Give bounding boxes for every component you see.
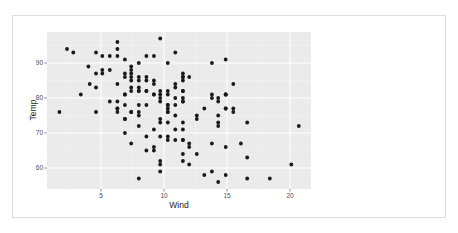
data-point	[166, 89, 170, 93]
data-point	[94, 110, 98, 114]
data-point	[58, 110, 62, 114]
data-point	[116, 110, 120, 114]
data-point	[145, 103, 149, 107]
data-point	[145, 89, 149, 93]
data-point	[158, 89, 162, 93]
data-point	[137, 110, 141, 114]
data-point	[166, 138, 170, 142]
data-point	[289, 163, 293, 167]
scatter-plot: 5101520 60708090 Wind Temp	[0, 0, 458, 233]
x-axis-ticks: 5101520	[99, 189, 294, 199]
data-point	[210, 96, 214, 100]
data-point	[216, 124, 220, 128]
data-point	[224, 145, 228, 149]
data-point	[173, 138, 177, 142]
data-point	[100, 54, 104, 58]
data-point	[158, 121, 162, 125]
data-point	[181, 152, 185, 156]
data-point	[123, 75, 127, 79]
data-point	[145, 75, 149, 79]
data-point	[152, 54, 156, 58]
data-point	[173, 86, 177, 90]
data-point	[181, 96, 185, 100]
data-point	[166, 103, 170, 107]
data-point	[181, 128, 185, 132]
data-point	[152, 128, 156, 132]
data-point	[173, 82, 177, 86]
data-point	[108, 54, 112, 58]
data-point	[129, 75, 133, 79]
data-point	[166, 93, 170, 97]
data-point	[181, 159, 185, 163]
data-point	[129, 72, 133, 76]
data-point	[158, 96, 162, 100]
data-point	[145, 79, 149, 83]
data-point	[137, 61, 141, 65]
data-point	[210, 170, 214, 174]
data-point	[195, 152, 199, 156]
data-point	[145, 149, 149, 153]
data-point	[239, 142, 243, 146]
data-point	[137, 79, 141, 83]
data-point	[181, 72, 185, 76]
x-axis-title: Wind	[169, 200, 189, 210]
data-point	[158, 93, 162, 97]
data-point	[181, 75, 185, 79]
data-point	[216, 96, 220, 100]
data-point	[187, 163, 191, 167]
y-tick-label: 70	[36, 129, 44, 136]
data-point	[137, 103, 141, 107]
data-point	[224, 58, 228, 62]
x-tick-label: 15	[223, 192, 231, 199]
data-point	[129, 79, 133, 83]
data-point	[210, 61, 214, 65]
data-point	[129, 65, 133, 69]
data-point	[245, 121, 249, 125]
data-point	[245, 177, 249, 181]
data-point	[129, 86, 133, 90]
data-point	[231, 82, 235, 86]
data-point	[116, 100, 120, 104]
data-point	[129, 142, 133, 146]
y-axis-title: Temp	[28, 99, 38, 120]
data-point	[181, 89, 185, 93]
data-point	[158, 163, 162, 167]
data-point	[195, 114, 199, 118]
data-point	[210, 93, 214, 97]
data-point	[166, 61, 170, 65]
data-point	[100, 72, 104, 76]
data-point	[173, 114, 177, 118]
data-point	[94, 72, 98, 76]
data-point	[116, 47, 120, 51]
data-point	[137, 89, 141, 93]
data-point	[297, 124, 301, 128]
x-tick-label: 5	[99, 192, 103, 199]
data-point	[173, 103, 177, 107]
data-point	[268, 177, 272, 181]
data-point	[166, 121, 170, 125]
data-point	[202, 173, 206, 177]
data-point	[137, 86, 141, 90]
data-point	[187, 75, 191, 79]
data-point	[145, 54, 149, 58]
data-point	[123, 72, 127, 76]
data-point	[224, 107, 228, 111]
data-point	[195, 117, 199, 121]
data-point	[173, 51, 177, 55]
y-tick-label: 60	[36, 164, 44, 171]
data-point	[137, 75, 141, 79]
data-point	[87, 65, 91, 69]
data-point	[166, 107, 170, 111]
data-point	[158, 117, 162, 121]
data-point	[123, 93, 127, 97]
data-point	[137, 177, 141, 181]
data-point	[152, 79, 156, 83]
data-point	[216, 121, 220, 125]
data-point	[231, 107, 235, 111]
data-point	[123, 103, 127, 107]
data-point	[152, 82, 156, 86]
data-point	[231, 110, 235, 114]
data-point	[152, 93, 156, 97]
data-point	[181, 138, 185, 142]
data-point	[166, 110, 170, 114]
